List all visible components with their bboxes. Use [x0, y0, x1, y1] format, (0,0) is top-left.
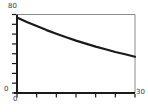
y-axis-min-label: 0 — [4, 86, 8, 93]
x-axis-min-label: 0 — [13, 96, 17, 103]
x-axis-max-label: 30 — [136, 89, 145, 96]
data-curve — [17, 17, 135, 56]
chart-container: 80 0 0 30 — [0, 0, 148, 112]
y-axis-max-label: 80 — [8, 3, 17, 10]
plot-svg — [0, 0, 148, 112]
